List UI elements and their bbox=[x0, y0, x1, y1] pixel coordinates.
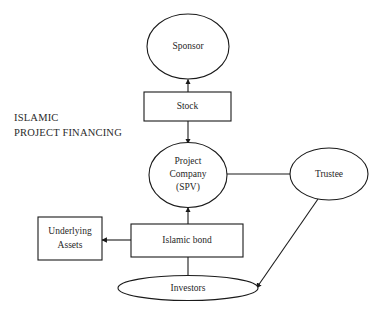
section-label-line2: PROJECT FINANCING bbox=[14, 127, 122, 138]
node-sponsor[interactable]: Sponsor bbox=[147, 14, 229, 79]
edge-trustee-to-investors bbox=[257, 199, 319, 288]
node-trustee[interactable]: Trustee bbox=[290, 148, 368, 200]
underlying-assets-label-line2: Assets bbox=[58, 240, 83, 250]
project-company-label-line3: (SPV) bbox=[176, 182, 200, 193]
investors-label: Investors bbox=[171, 283, 206, 293]
project-company-label-line2: Company bbox=[170, 169, 207, 179]
trustee-label: Trustee bbox=[315, 169, 343, 179]
section-label-line1: ISLAMIC bbox=[14, 112, 59, 123]
underlying-assets-rectangle bbox=[38, 217, 102, 260]
islamic-bond-label: Islamic bond bbox=[162, 235, 212, 245]
project-company-label-line1: Project bbox=[175, 156, 202, 166]
islamic-project-financing-diagram: Sponsor Stock Project Company (SPV) Trus… bbox=[0, 0, 378, 315]
section-label: ISLAMIC PROJECT FINANCING bbox=[14, 112, 122, 138]
underlying-assets-label-line1: Underlying bbox=[48, 226, 92, 236]
node-stock[interactable]: Stock bbox=[144, 92, 231, 121]
sponsor-label: Sponsor bbox=[172, 41, 204, 51]
node-islamic-bond[interactable]: Islamic bond bbox=[131, 224, 243, 257]
node-underlying-assets[interactable]: Underlying Assets bbox=[38, 217, 102, 260]
node-investors[interactable]: Investors bbox=[118, 276, 258, 301]
node-project-company[interactable]: Project Company (SPV) bbox=[149, 143, 227, 208]
diagram-canvas: Sponsor Stock Project Company (SPV) Trus… bbox=[0, 0, 378, 315]
stock-label: Stock bbox=[177, 101, 199, 111]
